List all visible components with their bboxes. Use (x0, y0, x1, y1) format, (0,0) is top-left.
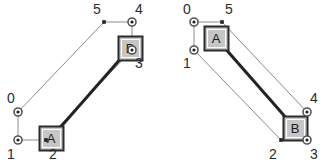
point-marker-dot[interactable] (220, 20, 224, 24)
point-label: 0 (7, 90, 15, 106)
point-label: 2 (269, 146, 277, 162)
point-label: 5 (225, 1, 233, 17)
point-5[interactable]: 5 (93, 1, 106, 24)
node-label: A (47, 131, 56, 146)
left-diagram: AB012345 (7, 1, 143, 162)
diagram-svg: AB012345AB015432 (0, 0, 325, 163)
point-0[interactable]: 0 (183, 1, 198, 26)
node-label: B (291, 121, 300, 136)
point-label: 5 (93, 1, 101, 17)
point-4[interactable]: 4 (303, 90, 318, 116)
connector-line-thin (222, 22, 307, 112)
point-label: 1 (7, 146, 15, 162)
point-marker-dot[interactable] (44, 138, 48, 142)
point-label: 1 (183, 55, 191, 71)
point-marker-center (305, 138, 308, 141)
point-1[interactable]: 1 (183, 46, 198, 71)
right-diagram: AB015432 (183, 1, 318, 162)
point-marker-dot[interactable] (102, 20, 106, 24)
point-marker-center (130, 48, 133, 51)
point-label: 2 (49, 146, 57, 162)
node-a[interactable]: A (205, 27, 229, 51)
point-0[interactable]: 0 (7, 90, 22, 116)
point-label: 3 (310, 146, 318, 162)
point-2[interactable]: 2 (269, 138, 283, 162)
point-1[interactable]: 1 (7, 136, 22, 162)
point-5[interactable]: 5 (220, 1, 233, 24)
point-4[interactable]: 4 (128, 1, 143, 26)
connector-line-thin (18, 22, 104, 112)
point-label: 4 (310, 90, 318, 106)
point-marker-center (130, 20, 133, 23)
point-label: 0 (183, 1, 191, 17)
point-marker-center (192, 48, 195, 51)
node-label: A (212, 31, 221, 46)
point-marker-center (305, 110, 308, 113)
point-3[interactable]: 3 (303, 136, 318, 162)
point-marker-dot[interactable] (279, 138, 283, 142)
point-marker-center (16, 138, 19, 141)
point-marker-center (16, 110, 19, 113)
point-label: 3 (135, 55, 143, 71)
point-label: 4 (135, 1, 143, 17)
point-marker-center (192, 20, 195, 23)
diagram-canvas: AB012345AB015432 (0, 0, 325, 163)
